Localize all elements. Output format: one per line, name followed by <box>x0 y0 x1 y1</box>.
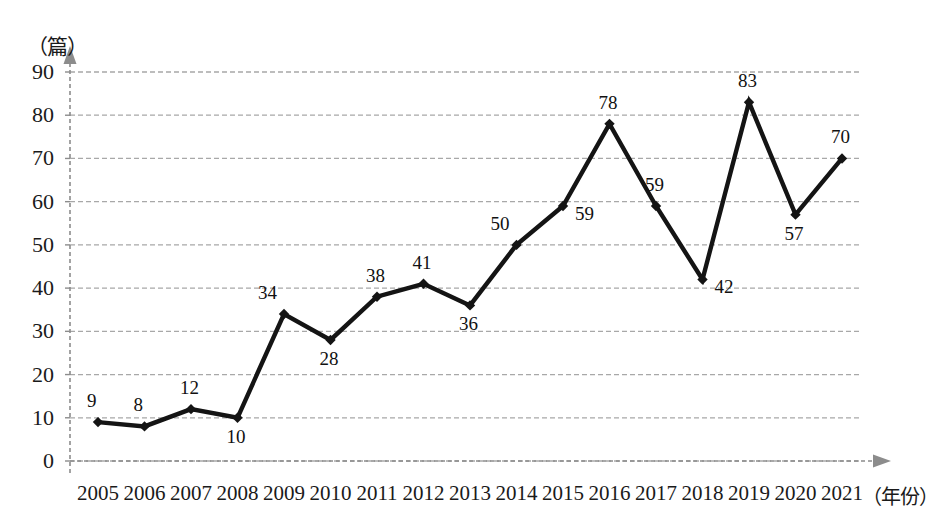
data-value-label: 9 <box>87 390 97 412</box>
data-value-label: 59 <box>575 203 594 225</box>
y-axis-tick-label: 60 <box>12 189 54 215</box>
y-axis-tick-label: 50 <box>12 232 54 258</box>
data-point-markers <box>93 97 847 432</box>
data-value-label: 10 <box>227 426 246 448</box>
data-value-label: 59 <box>645 174 664 196</box>
data-value-label: 8 <box>134 394 144 416</box>
y-axis-tick-label: 70 <box>12 145 54 171</box>
line-chart: （篇） （年份） 0102030405060708090 20052006200… <box>0 0 949 522</box>
x-axis-tick-label: 2021 <box>813 481 871 506</box>
data-value-label: 38 <box>366 265 385 287</box>
data-value-label: 78 <box>599 92 618 114</box>
y-axis-tick-label: 40 <box>12 275 54 301</box>
data-point-marker <box>93 417 103 427</box>
series-polyline <box>98 102 842 426</box>
y-axis-tick-label: 90 <box>12 59 54 85</box>
y-axis-tick-label: 30 <box>12 318 54 344</box>
data-value-label: 28 <box>320 348 339 370</box>
y-axis-unit-label: （篇） <box>27 30 87 60</box>
chart-plot-area <box>0 0 949 522</box>
data-series-line <box>98 102 842 426</box>
data-value-label: 42 <box>715 276 734 298</box>
y-axis-tick-label: 0 <box>12 448 54 474</box>
data-value-label: 50 <box>491 213 510 235</box>
data-value-label: 57 <box>785 223 804 245</box>
y-axis-tick-label: 80 <box>12 102 54 128</box>
data-value-label: 83 <box>738 70 757 92</box>
y-axis-tick-label: 10 <box>12 405 54 431</box>
x-axis-arrow-icon <box>873 455 891 468</box>
data-value-label: 41 <box>413 252 432 274</box>
data-value-label: 36 <box>459 313 478 335</box>
data-value-label: 34 <box>258 282 277 304</box>
data-value-label: 12 <box>180 377 199 399</box>
y-axis-tick-label: 20 <box>12 362 54 388</box>
x-axis-unit-label: （年份） <box>862 481 938 510</box>
data-value-label: 70 <box>831 126 850 148</box>
